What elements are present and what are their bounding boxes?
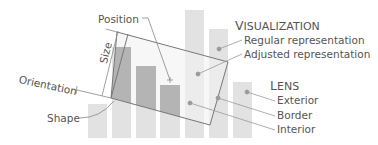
legend-regular-representation: Regular representation — [244, 35, 365, 46]
legend-exterior: Exterior — [277, 95, 318, 106]
legend-visualization-title: VISUALIZATION — [235, 20, 320, 33]
legend-adjusted-representation: Adjusted representation — [244, 49, 370, 60]
legend-interior: Interior — [277, 124, 315, 135]
legend-lens-title: LENS — [270, 80, 299, 93]
label-position: Position — [98, 14, 139, 25]
legend-border: Border — [277, 110, 312, 121]
label-shape: Shape — [47, 113, 80, 124]
